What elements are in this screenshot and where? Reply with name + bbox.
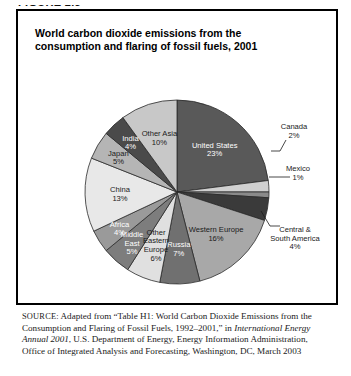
figure-label: FIGURE 2.5 [18,0,81,8]
figure-frame: World carbon dioxide emissions from the … [16,9,338,305]
pie-slice-label: Central &South America4% [270,225,320,251]
pie-slice-label: Mexico1% [286,164,310,182]
source-note: SOURCE: Adapted from “Table H1: World Ca… [22,311,332,357]
pie-chart-svg: United States23%Canada2%Mexico1%Central … [18,11,336,303]
pie-chart: United States23%Canada2%Mexico1%Central … [18,11,336,303]
pie-slice-label: Canada2% [281,122,308,140]
leader-line [271,140,286,151]
pie-slice-label: China13% [110,185,131,203]
source-prefix: SOURCE: [22,312,59,321]
